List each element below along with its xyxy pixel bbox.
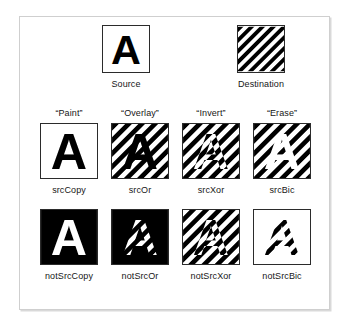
result-tile (111, 123, 169, 179)
result-artwork-srccopy (41, 124, 97, 178)
result-tile (182, 209, 240, 265)
svg-text:A: A (111, 27, 141, 72)
result-artwork-srcbic (254, 124, 310, 178)
result-artwork-notsrcor (112, 210, 168, 264)
destination-label: Destination (216, 79, 306, 90)
result-artwork-srcxor (183, 124, 239, 178)
result-artwork-srcor (112, 124, 168, 178)
operand-source: A Source (86, 25, 166, 90)
result-tile (40, 209, 98, 265)
source-tile: A (102, 25, 150, 73)
destination-tile (237, 25, 285, 73)
source-artwork: A (103, 26, 149, 72)
figure-panel: A Source Destination “Paint” (19, 16, 330, 310)
result-tile (111, 209, 169, 265)
result-tile (182, 123, 240, 179)
result-tile (253, 209, 311, 265)
result-artwork-notsrcxor (183, 210, 239, 264)
destination-artwork (238, 26, 284, 72)
result-nickname: “Erase” (239, 108, 325, 119)
result-mode-label: srcBic (239, 185, 325, 196)
result-tile (40, 123, 98, 179)
source-label: Source (86, 79, 166, 90)
result-mode-label: notSrcBic (239, 271, 325, 282)
result-srcbic: “Erase” srcBic (239, 108, 325, 196)
result-artwork-notsrcbic (254, 210, 310, 264)
result-notsrcbic: notSrcBic (239, 209, 325, 282)
result-tile (253, 123, 311, 179)
result-artwork-notsrccopy (41, 210, 97, 264)
operand-destination: Destination (216, 25, 306, 90)
